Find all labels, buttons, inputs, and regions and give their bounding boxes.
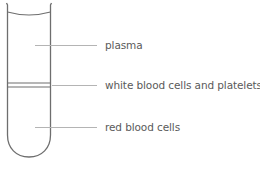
plasma-meniscus [8,12,51,15]
tube-right-wall [51,3,52,135]
tube-left-wall [7,3,8,135]
tube-bottom [8,135,51,157]
test-tube [7,3,52,157]
white-blood-cells-label: white blood cells and platelets [105,79,260,91]
red-blood-cells-label: red blood cells [105,121,180,133]
blood-separation-diagram: plasma white blood cells and platelets r… [0,0,260,170]
plasma-label: plasma [105,39,143,51]
